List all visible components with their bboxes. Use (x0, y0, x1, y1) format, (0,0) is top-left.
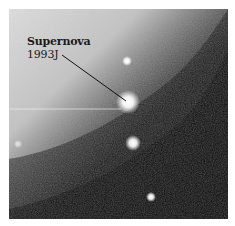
label-line-1: Supernova (27, 35, 90, 48)
supernova-label: Supernova 1993J (27, 35, 90, 61)
supernova-star (116, 90, 140, 114)
star-middle (125, 135, 141, 151)
star-lower (146, 192, 156, 202)
astronomical-photo: Supernova 1993J (9, 9, 228, 219)
label-line-2: 1993J (27, 48, 90, 61)
star-upper (122, 56, 132, 66)
star-left (14, 140, 22, 148)
